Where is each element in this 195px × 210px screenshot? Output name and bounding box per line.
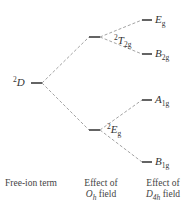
label-d4h-b1g: B1g <box>155 156 169 167</box>
label-d4h-b2g: B2g <box>155 48 169 59</box>
label-t2g: 2T2g <box>114 35 131 46</box>
connector <box>42 37 89 83</box>
caption-oh: Effect of Oh field <box>80 178 122 200</box>
caption-free-ion: Free-ion term <box>5 178 57 189</box>
label-free-ion: 2D <box>13 77 25 88</box>
label-eg: 2Eg <box>107 124 121 135</box>
label-d4h-eg: Eg <box>155 14 165 25</box>
caption-d4h: Effect of D4h field <box>140 178 186 200</box>
connector <box>42 83 89 130</box>
label-d4h-a1g: A1g <box>155 94 169 105</box>
